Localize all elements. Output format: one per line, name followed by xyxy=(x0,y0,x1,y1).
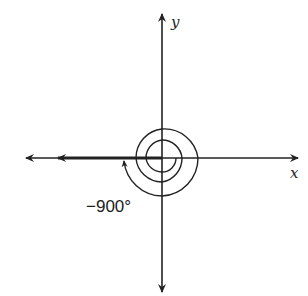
rotation-spiral-arrow xyxy=(124,129,198,196)
angle-label: −900° xyxy=(86,197,131,216)
x-axis-label: x xyxy=(290,164,299,182)
diagram-canvas: y x −900° xyxy=(0,0,308,296)
y-axis-label: y xyxy=(170,13,180,31)
angle-diagram: y x −900° xyxy=(0,0,308,296)
